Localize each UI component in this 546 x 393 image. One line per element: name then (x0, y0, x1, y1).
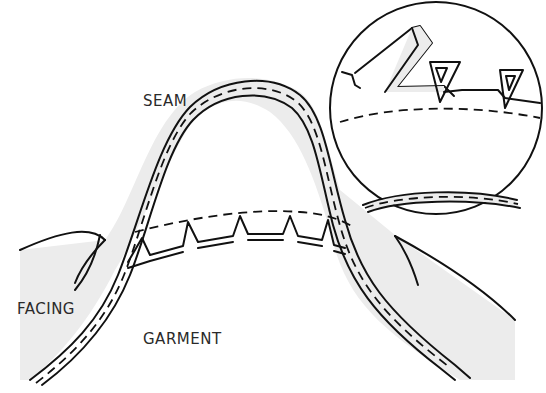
magnifier-inset (330, 2, 542, 214)
facing-label: FACING (17, 300, 75, 318)
seam-label: SEAM (143, 92, 187, 110)
notched-seam-allowance (128, 216, 345, 268)
garment-label: GARMENT (143, 330, 222, 348)
seam-diagram (0, 0, 546, 393)
